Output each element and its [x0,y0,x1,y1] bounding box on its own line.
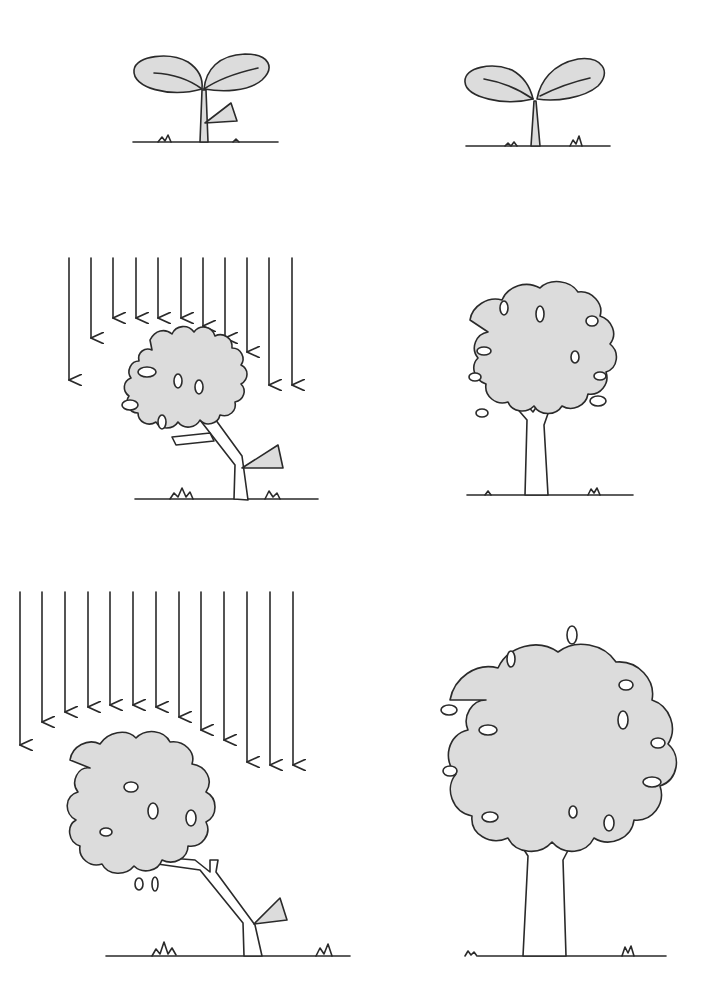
leaning-young-tree [122,327,318,500]
triangle-marker [254,898,287,924]
triangle-marker [242,445,283,468]
triangle-marker [205,103,237,123]
upright-mature-tree [441,626,676,956]
leaning-mature-tree [67,732,350,956]
upright-young-tree [467,282,633,495]
seedling-with-marker [133,54,278,142]
illustration [0,0,723,985]
seedling-control [465,59,610,146]
figure-canvas [0,0,723,985]
